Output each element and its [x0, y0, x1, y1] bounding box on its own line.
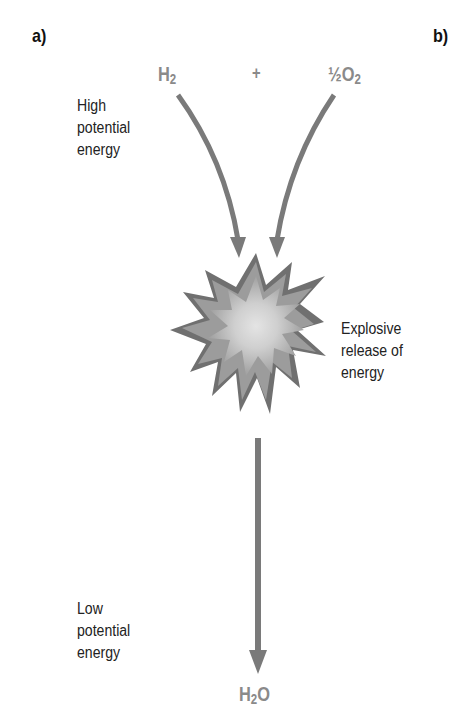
explosion-starburst-icon	[170, 253, 326, 414]
arrow-o2-to-reaction	[269, 95, 334, 258]
arrow-h2-to-reaction	[178, 95, 246, 258]
diagram-art	[0, 0, 456, 719]
arrow-reaction-to-h2o	[249, 438, 267, 674]
